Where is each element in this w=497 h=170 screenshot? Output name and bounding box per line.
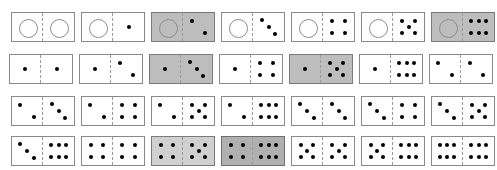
domino-half-left-3: [12, 137, 43, 165]
domino-half-left-1: [290, 55, 321, 83]
pip-dot: [305, 109, 309, 113]
domino-half-left-0: [292, 13, 323, 41]
blank-circle-icon: [89, 19, 108, 38]
pip-dot: [397, 61, 401, 65]
domino-tile-1-4[interactable]: [219, 54, 283, 84]
domino-half-right-5: [393, 13, 424, 41]
domino-tile-5-5[interactable]: [291, 136, 355, 166]
domino-tile-1-6[interactable]: [359, 54, 423, 84]
pip-dot: [452, 155, 456, 159]
domino-tile-1-2[interactable]: [79, 54, 143, 84]
domino-tile-2-2[interactable]: [429, 54, 493, 84]
domino-tile-5-6[interactable]: [361, 136, 425, 166]
pip-dot: [298, 102, 302, 106]
pip-dot: [267, 115, 271, 119]
pip-dot: [343, 116, 347, 120]
pip-dot: [274, 103, 278, 107]
pip-dot: [407, 143, 411, 147]
domino-half-left-2: [222, 97, 253, 125]
pip-dot: [469, 19, 473, 23]
domino-half-left-5: [362, 137, 393, 165]
domino-tile-0-1[interactable]: [81, 12, 145, 42]
pip-dot: [477, 143, 481, 147]
pip-dot: [438, 102, 442, 106]
domino-tile-0-3[interactable]: [221, 12, 285, 42]
pip-dot: [328, 73, 332, 77]
pip-dot: [381, 143, 385, 147]
domino-half-left-4: [82, 137, 113, 165]
domino-row: [0, 6, 497, 48]
pip-dot: [412, 73, 416, 77]
domino-tile-2-3[interactable]: [11, 96, 75, 126]
blank-circle-icon: [299, 19, 318, 38]
pip-dot: [93, 67, 97, 71]
domino-tile-3-5[interactable]: [431, 96, 495, 126]
domino-row: [0, 48, 497, 90]
domino-tile-3-6[interactable]: [11, 136, 75, 166]
pip-dot: [452, 116, 456, 120]
domino-half-right-3: [253, 13, 284, 41]
pip-dot: [469, 143, 473, 147]
pip-dot: [343, 155, 347, 159]
pip-dot: [436, 61, 440, 65]
domino-tile-3-4[interactable]: [361, 96, 425, 126]
domino-half-right-1: [41, 55, 72, 83]
domino-tile-2-6[interactable]: [221, 96, 285, 126]
domino-half-left-2: [12, 97, 43, 125]
domino-tile-0-2[interactable]: [151, 12, 215, 42]
pip-dot: [23, 67, 27, 71]
domino-tile-0-6[interactable]: [431, 12, 495, 42]
domino-tile-4-5[interactable]: [151, 136, 215, 166]
domino-tile-1-1[interactable]: [9, 54, 73, 84]
pip-dot: [25, 149, 29, 153]
domino-tile-6-6[interactable]: [431, 136, 495, 166]
domino-tile-1-5[interactable]: [289, 54, 353, 84]
blank-circle-icon: [369, 19, 388, 38]
pip-dot: [190, 115, 194, 119]
pip-dot: [369, 155, 373, 159]
pip-dot: [190, 155, 194, 159]
domino-half-right-2: [111, 55, 142, 83]
pip-dot: [190, 19, 194, 23]
pip-dot: [64, 143, 68, 147]
pip-dot: [399, 143, 403, 147]
domino-tile-0-4[interactable]: [291, 12, 355, 42]
pip-dot: [267, 155, 271, 159]
pip-dot: [195, 67, 199, 71]
domino-half-right-4: [323, 13, 354, 41]
pip-dot: [32, 156, 36, 160]
pip-dot: [271, 61, 275, 65]
pip-dot: [120, 143, 124, 147]
domino-half-left-1: [220, 55, 251, 83]
pip-dot: [127, 25, 131, 29]
domino-tile-4-4[interactable]: [81, 136, 145, 166]
pip-dot: [445, 109, 449, 113]
pip-dot: [450, 73, 454, 77]
domino-half-right-6: [393, 137, 424, 165]
domino-tile-2-4[interactable]: [81, 96, 145, 126]
pip-dot: [203, 31, 207, 35]
domino-tile-0-0[interactable]: [11, 12, 75, 42]
domino-tile-3-3[interactable]: [291, 96, 355, 126]
pip-dot: [477, 109, 481, 113]
pip-dot: [299, 143, 303, 147]
domino-tile-4-6[interactable]: [221, 136, 285, 166]
pip-dot: [330, 31, 334, 35]
domino-tile-2-5[interactable]: [151, 96, 215, 126]
pip-dot: [159, 143, 163, 147]
pip-dot: [484, 31, 488, 35]
blank-circle-icon: [159, 19, 178, 38]
pip-dot: [413, 19, 417, 23]
pip-dot: [400, 115, 404, 119]
domino-half-left-5: [292, 137, 323, 165]
pip-dot: [470, 103, 474, 107]
pip-dot: [375, 149, 379, 153]
domino-tile-0-5[interactable]: [361, 12, 425, 42]
domino-half-right-1: [113, 13, 144, 41]
pip-dot: [32, 115, 36, 119]
pip-dot: [274, 143, 278, 147]
domino-tile-1-3[interactable]: [149, 54, 213, 84]
domino-set-figure: [0, 0, 497, 170]
domino-half-left-0: [432, 13, 463, 41]
pip-dot: [57, 109, 61, 113]
